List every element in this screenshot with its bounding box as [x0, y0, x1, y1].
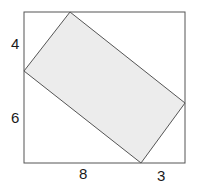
- label-bottom-right-segment: 3: [157, 168, 165, 183]
- diagram-canvas: [0, 0, 197, 190]
- label-left-bottom-segment: 6: [11, 110, 19, 125]
- label-bottom-left-segment: 8: [79, 166, 87, 181]
- label-left-top-segment: 4: [11, 36, 19, 51]
- inscribed-rectangle: [24, 12, 185, 163]
